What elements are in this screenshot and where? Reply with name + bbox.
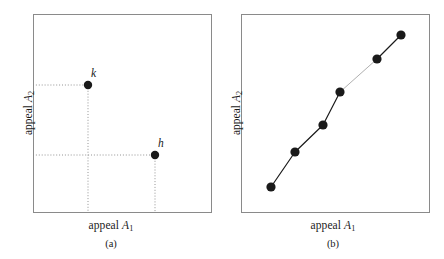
point-label-h: h bbox=[158, 137, 164, 149]
panel-b-y-axis-label-sub: 2 bbox=[235, 91, 244, 95]
data-connector bbox=[295, 125, 323, 152]
panel-a-y-axis-label-sub: 2 bbox=[27, 91, 36, 95]
data-point-marker bbox=[266, 182, 275, 191]
panel-a-x-axis-label: appeal A1 bbox=[0, 219, 222, 233]
data-point-marker bbox=[318, 120, 327, 129]
panel-b-caption: (b) bbox=[222, 238, 444, 249]
plot-frame bbox=[34, 15, 212, 213]
panel-a-y-axis-label: appeal A2 bbox=[22, 91, 36, 135]
panel-b-y-axis-label-var: A bbox=[230, 95, 242, 102]
figure-root: appeal A2 appeal A1 (a) kh appeal A2 app… bbox=[0, 0, 444, 259]
data-point-marker bbox=[335, 87, 344, 96]
panel-b-x-axis-label-sub: 1 bbox=[351, 224, 355, 233]
panel-b-x-axis-label: appeal A1 bbox=[222, 219, 444, 233]
panel-a-caption: (a) bbox=[0, 238, 222, 249]
data-point-marker bbox=[151, 151, 159, 159]
data-connector bbox=[271, 152, 295, 187]
data-connector bbox=[340, 59, 377, 92]
panel-b-y-axis-label-text: appeal bbox=[230, 102, 242, 135]
panel-b-y-axis-label: appeal A2 bbox=[230, 91, 244, 135]
panel-a: appeal A2 appeal A1 (a) kh bbox=[0, 0, 222, 259]
data-connector bbox=[323, 92, 340, 125]
data-point-marker bbox=[84, 81, 92, 89]
panel-a-y-axis-label-text: appeal bbox=[22, 102, 34, 135]
panel-a-y-axis-label-var: A bbox=[22, 95, 34, 102]
panel-a-x-axis-label-text: appeal bbox=[89, 219, 123, 231]
panel-b: appeal A2 appeal A1 (b) bbox=[222, 0, 444, 259]
data-connector bbox=[377, 35, 401, 59]
data-point-marker bbox=[290, 147, 299, 156]
panel-b-x-axis-label-text: appeal bbox=[311, 219, 345, 231]
data-point-marker bbox=[372, 54, 381, 63]
panel-a-x-axis-label-sub: 1 bbox=[129, 224, 133, 233]
point-label-k: k bbox=[91, 67, 96, 79]
data-point-marker bbox=[396, 30, 405, 39]
